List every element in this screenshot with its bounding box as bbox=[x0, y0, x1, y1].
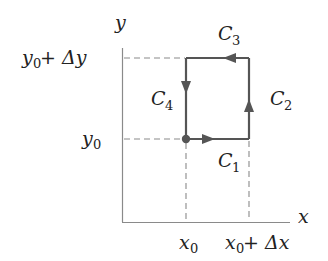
svg-text:+ Δx: + Δx bbox=[243, 231, 290, 253]
svg-text:0: 0 bbox=[190, 241, 198, 256]
arrow-left-icon bbox=[223, 53, 236, 63]
start-point bbox=[182, 135, 190, 143]
svg-text:0: 0 bbox=[93, 137, 101, 152]
arrow-right-icon bbox=[202, 134, 215, 144]
svg-text:x: x bbox=[179, 231, 190, 253]
svg-text:y: y bbox=[81, 127, 93, 149]
label-c1: C 1 bbox=[218, 149, 240, 175]
direction-arrows bbox=[181, 53, 254, 144]
y-axis-label: y bbox=[114, 11, 126, 33]
svg-text:2: 2 bbox=[284, 98, 292, 113]
svg-text:C: C bbox=[151, 87, 166, 109]
svg-text:y: y bbox=[21, 46, 33, 68]
x-tick-x0-plus-dx: x 0 + Δx bbox=[225, 231, 290, 256]
closed-path bbox=[186, 58, 249, 139]
svg-text:4: 4 bbox=[165, 98, 173, 113]
svg-text:+ Δy: + Δy bbox=[40, 46, 87, 68]
arrow-down-icon bbox=[181, 81, 191, 94]
y-tick-y0-plus-dy: y 0 + Δy bbox=[21, 46, 87, 71]
y-tick-y0: y 0 bbox=[81, 127, 101, 152]
svg-text:C: C bbox=[218, 149, 233, 171]
svg-text:C: C bbox=[218, 22, 233, 44]
x-tick-x0: x 0 bbox=[179, 231, 198, 256]
label-c3: C 3 bbox=[218, 22, 240, 48]
svg-text:1: 1 bbox=[232, 160, 240, 175]
svg-text:x: x bbox=[225, 231, 236, 253]
axes bbox=[122, 48, 290, 223]
svg-text:3: 3 bbox=[232, 33, 240, 48]
svg-text:C: C bbox=[270, 87, 285, 109]
x-axis-label: x bbox=[298, 205, 309, 227]
label-c2: C 2 bbox=[270, 87, 292, 113]
label-c4: C 4 bbox=[151, 87, 173, 113]
arrow-up-icon bbox=[244, 99, 254, 112]
contour-diagram: y x y 0 + Δy y 0 x 0 x 0 + Δx C 1 C 2 C … bbox=[0, 0, 328, 261]
